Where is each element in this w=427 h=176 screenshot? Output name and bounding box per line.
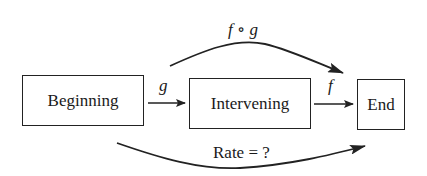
edge-label-composition: f ∘ g — [228, 19, 258, 40]
edge-label-g: g — [159, 76, 168, 96]
arrow-composition — [170, 42, 343, 73]
edge-label-f: f — [328, 76, 333, 96]
node-end-label: End — [367, 95, 394, 115]
node-end: End — [357, 79, 405, 130]
node-intervening: Intervening — [189, 78, 311, 129]
diagram-canvas: Beginning Intervening End g f f ∘ g Rate… — [0, 0, 427, 176]
node-beginning: Beginning — [22, 75, 144, 126]
node-intervening-label: Intervening — [211, 94, 289, 114]
node-beginning-label: Beginning — [48, 91, 119, 111]
edge-label-rate: Rate = ? — [213, 143, 270, 163]
